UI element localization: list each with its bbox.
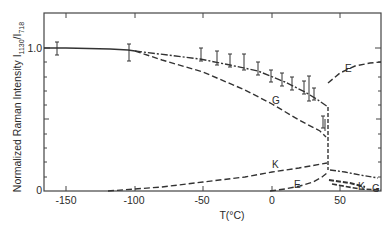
- label-G: G: [272, 95, 280, 106]
- plot-frame: [44, 13, 381, 191]
- curve-E-high: [328, 62, 381, 83]
- x-tick-label: -100: [123, 194, 144, 206]
- error-bars: [55, 42, 325, 131]
- x-tick-label: -50: [194, 194, 209, 206]
- x-ticks: [66, 13, 340, 191]
- chart: -150 -100 -50 0 50 0 1.0 T(°C) G K E E K…: [0, 0, 391, 227]
- label-K2: K: [358, 181, 365, 192]
- x-tick-label: 0: [269, 194, 275, 206]
- x-tick-labels: -150 -100 -50 0 50: [55, 194, 346, 206]
- experimental-curve-high-t: [330, 170, 378, 178]
- y-tick-label-0: 0: [36, 184, 42, 196]
- label-G2: G: [372, 183, 380, 194]
- label-E-low: E: [294, 179, 301, 190]
- experimental-curve-solid: [44, 48, 135, 51]
- x-tick-label: 50: [334, 194, 346, 206]
- y-tick-labels: 0 1.0: [27, 42, 42, 196]
- experimental-curve-dashdot: [135, 51, 328, 107]
- y-axis-label: Normalized Raman Intensity I1130/I718: [11, 7, 25, 207]
- x-axis-label: T(°C): [219, 209, 244, 221]
- x-tick-label: -150: [55, 194, 76, 206]
- y-ticks: [44, 48, 381, 177]
- y-tick-label-1: 1.0: [27, 42, 42, 54]
- label-E-high: E: [345, 63, 352, 74]
- label-K: K: [272, 159, 279, 170]
